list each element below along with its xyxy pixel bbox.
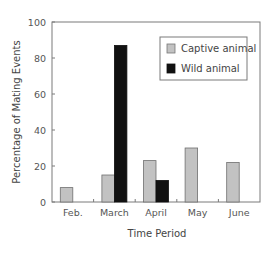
bar-wild-animal-april xyxy=(156,180,169,202)
legend-swatch-wild xyxy=(167,64,175,73)
y-axis-ticks: 020406080100 xyxy=(28,17,55,208)
bar-wild-animal-march xyxy=(114,45,127,202)
bar-chart: 020406080100 Feb.MarchAprilMayJune Perce… xyxy=(0,0,273,254)
bar-captive-animal-feb xyxy=(60,188,73,202)
x-tick-label: April xyxy=(145,207,167,218)
y-tick-label: 40 xyxy=(34,125,46,136)
legend: Captive animal Wild animal xyxy=(160,37,256,80)
x-axis-title: Time Period xyxy=(127,228,187,239)
y-tick-label: 0 xyxy=(40,197,46,208)
y-tick-label: 20 xyxy=(34,161,46,172)
x-tick-label: Feb. xyxy=(63,207,83,218)
bar-captive-animal-june xyxy=(227,162,240,202)
x-tick-label: June xyxy=(228,207,250,218)
y-tick-label: 80 xyxy=(34,53,46,64)
bar-captive-animal-may xyxy=(185,148,198,202)
x-tick-label: March xyxy=(100,207,129,218)
y-tick-label: 100 xyxy=(28,17,46,28)
bar-captive-animal-march xyxy=(102,175,115,202)
legend-swatch-captive xyxy=(167,44,175,53)
y-axis-title: Percentage of Mating Events xyxy=(11,40,22,183)
legend-label-captive: Captive animal xyxy=(181,43,256,54)
legend-label-wild: Wild animal xyxy=(181,63,240,74)
x-tick-label: May xyxy=(188,207,208,218)
y-tick-label: 60 xyxy=(34,89,46,100)
bar-captive-animal-april xyxy=(144,161,157,202)
